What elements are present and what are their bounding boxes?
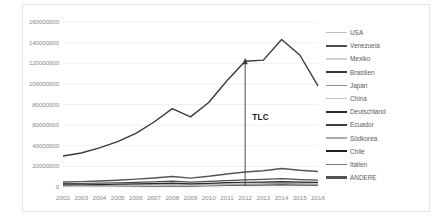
x-axis-tick-label: 2007 — [144, 194, 164, 201]
legend-swatch-icon — [326, 176, 347, 178]
y-axis-tick-label: 40000000 — [3, 142, 59, 149]
legend-label: Südkorea — [350, 135, 377, 142]
legend-item[interactable]: Chile — [326, 145, 430, 158]
legend-label: Italien — [350, 161, 367, 168]
legend-label: Venezuela — [350, 42, 380, 49]
legend-label: Ecuador — [350, 121, 374, 128]
x-axis-tick-label: 2012 — [235, 194, 255, 201]
legend-item[interactable]: USA — [326, 26, 430, 39]
y-axis-tick-label: 80000000 — [3, 101, 59, 108]
legend-swatch-icon — [326, 32, 347, 34]
y-axis-tick-label: 140000000 — [3, 39, 59, 46]
legend-label: Brasilien — [350, 69, 375, 76]
legend-item[interactable]: Japan — [326, 79, 430, 92]
y-axis-tick-label: 160000000 — [3, 18, 59, 25]
series-line-brasilien — [63, 40, 318, 157]
legend-swatch-icon — [326, 98, 347, 100]
legend-item[interactable]: Mexiko — [326, 52, 430, 65]
legend-label: Mexiko — [350, 55, 370, 62]
legend-swatch-icon — [326, 150, 347, 152]
x-axis-tick-label: 2002 — [53, 194, 73, 201]
annotation-tlc-label: TLC — [252, 113, 269, 122]
y-axis-tick-label: 60000000 — [3, 121, 59, 128]
legend-swatch-icon — [326, 85, 347, 87]
x-axis-tick-label: 2008 — [162, 194, 182, 201]
legend-item[interactable]: Venezuela — [326, 39, 430, 52]
legend-item[interactable]: Südkorea — [326, 132, 430, 145]
y-axis-tick-label: 20000000 — [3, 162, 59, 169]
x-axis-tick-label: 2004 — [89, 194, 109, 201]
legend-item[interactable]: Brasilien — [326, 66, 430, 79]
x-axis-tick-label: 2015 — [290, 194, 310, 201]
x-axis-tick-label: 2014 — [272, 194, 292, 201]
x-axis-tick-label: 2016 — [308, 194, 328, 201]
legend-item[interactable]: China — [326, 92, 430, 105]
chart-legend: USAVenezuelaMexikoBrasilienJapanChinaDeu… — [326, 26, 430, 184]
legend-label: Chile — [350, 148, 365, 155]
legend-swatch-icon — [326, 137, 347, 139]
legend-swatch-icon — [326, 45, 347, 47]
legend-item[interactable]: ANDERE — [326, 171, 430, 184]
x-axis-tick-label: 2005 — [108, 194, 128, 201]
x-axis-tick-label: 2009 — [181, 194, 201, 201]
legend-swatch-icon — [326, 58, 347, 60]
legend-label: ANDERE — [350, 174, 377, 181]
x-axis-tick-label: 2003 — [71, 194, 91, 201]
legend-label: Japan — [350, 82, 367, 89]
x-axis-tick-label: 2010 — [199, 194, 219, 201]
legend-swatch-icon — [326, 124, 347, 126]
y-axis-tick-label: 100000000 — [3, 80, 59, 87]
y-axis-tick-label: 0 — [3, 183, 59, 190]
legend-item[interactable]: Deutschland — [326, 105, 430, 118]
y-axis-tick-label: 120000000 — [3, 59, 59, 66]
series-line-andere — [63, 168, 318, 182]
legend-item[interactable]: Ecuador — [326, 118, 430, 131]
legend-label: Deutschland — [350, 108, 386, 115]
legend-swatch-icon — [326, 71, 347, 73]
legend-swatch-icon — [326, 164, 347, 166]
legend-item[interactable]: Italien — [326, 158, 430, 171]
legend-label: China — [350, 95, 367, 102]
legend-label: USA — [350, 29, 363, 36]
x-axis-tick-label: 2011 — [217, 194, 237, 201]
x-axis-tick-label: 2006 — [126, 194, 146, 201]
x-axis-tick-label: 2013 — [253, 194, 273, 201]
legend-swatch-icon — [326, 111, 347, 113]
